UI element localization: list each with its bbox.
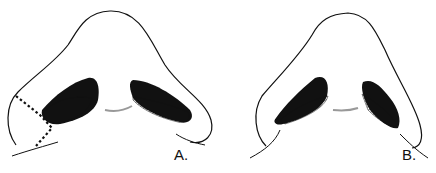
panel-label-b: B.	[402, 146, 416, 163]
panel-b-drawing	[250, 13, 428, 158]
nose-outline-a	[8, 11, 212, 145]
panel-label-a: A.	[174, 146, 188, 163]
panel-a-drawing	[8, 11, 212, 156]
nose-illustration	[0, 0, 436, 173]
